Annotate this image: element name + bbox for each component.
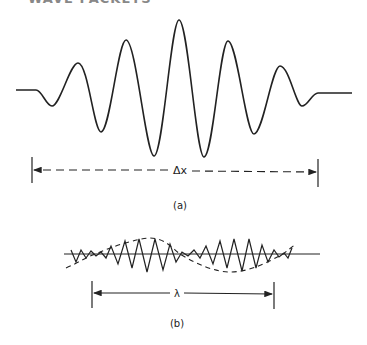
panel-b: λ (b) [64,238,320,329]
caption-b: (b) [170,318,184,329]
wave-packet-curve [16,20,352,157]
delta-x-label: Δx [173,164,188,177]
caption-a: (a) [173,200,187,211]
wave-packet-diagram: Δx (a) λ (b) [0,0,367,345]
lambda-label: λ [174,288,180,299]
panel-a: Δx (a) [16,20,352,211]
envelope-upper [66,238,296,272]
